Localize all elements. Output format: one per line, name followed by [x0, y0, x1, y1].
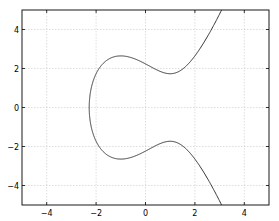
x-tick-label: −2	[90, 209, 102, 218]
grid-layer	[22, 10, 269, 205]
y-tick-label: 2	[14, 65, 19, 74]
x-tick-label: 0	[143, 209, 148, 218]
y-tick-label: −4	[7, 182, 19, 191]
y-tick-label: −2	[7, 143, 19, 152]
x-tick-label: 4	[242, 209, 247, 218]
y-tick-label: 4	[14, 26, 19, 35]
chart: −4−2024−4−2024	[0, 0, 279, 221]
x-tick-label: 2	[192, 209, 197, 218]
x-tick-label: −4	[41, 209, 53, 218]
y-tick-label: 0	[14, 104, 19, 113]
